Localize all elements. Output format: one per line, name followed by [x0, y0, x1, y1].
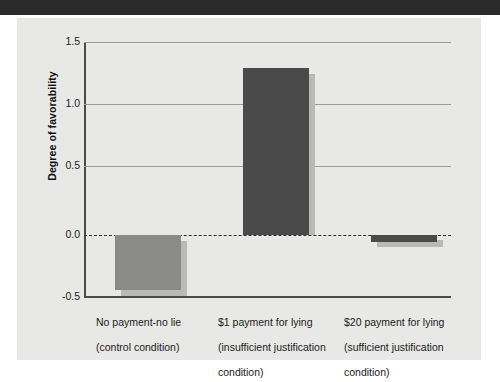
y-tick-neg-0-5: -0.5	[62, 291, 80, 302]
x-category-twenty-dollar-line2: (sufficient justification	[344, 341, 470, 354]
plot-area	[84, 42, 451, 297]
y-tick-0-5: 0.5	[65, 160, 80, 171]
x-category-no-payment-line2: (control condition)	[96, 341, 216, 354]
x-category-no-payment-line1: No payment-no lie	[96, 316, 216, 329]
y-tick-1-0: 1.0	[65, 98, 80, 109]
bar-no-payment-no-lie[interactable]	[115, 235, 181, 290]
gridline-1-5	[84, 42, 451, 43]
x-category-one-dollar-line2: (insufficient justification	[218, 341, 344, 354]
y-tick-0-0: 0.0	[65, 229, 80, 240]
x-category-twenty-dollar-line1: $20 payment for lying	[344, 316, 470, 329]
x-category-label-no-payment: No payment-no lie (control condition)	[96, 303, 216, 366]
x-category-twenty-dollar-line3: condition)	[344, 366, 470, 379]
y-axis-title: Degree of favorability	[46, 46, 58, 206]
x-category-label-one-dollar: $1 payment for lying (insufficient justi…	[218, 303, 344, 382]
y-tick-1-5: 1.5	[65, 36, 80, 47]
x-category-label-twenty-dollar: $20 payment for lying (sufficient justif…	[344, 303, 470, 382]
bar-twenty-dollar-payment[interactable]	[371, 235, 437, 242]
x-category-one-dollar-line1: $1 payment for lying	[218, 316, 344, 329]
bar-one-dollar-payment[interactable]	[243, 68, 309, 235]
x-category-one-dollar-line3: condition)	[218, 366, 344, 379]
